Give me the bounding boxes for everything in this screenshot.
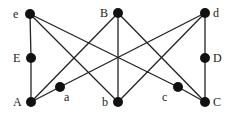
- node-d: [200, 8, 210, 18]
- edge-e-c: [30, 14, 178, 87]
- node-label-D: D: [213, 51, 222, 65]
- node-label-e: e: [13, 7, 18, 21]
- node-D: [200, 53, 210, 63]
- node-label-E: E: [13, 51, 20, 65]
- node-label-c: c: [162, 90, 167, 104]
- node-label-d: d: [213, 6, 219, 20]
- node-label-A: A: [13, 95, 22, 109]
- node-label-b: b: [102, 95, 108, 109]
- node-b: [113, 97, 123, 107]
- node-label-C: C: [213, 95, 221, 109]
- node-e: [25, 9, 35, 19]
- node-C: [200, 97, 210, 107]
- node-label-B: B: [100, 6, 108, 20]
- node-E: [26, 53, 36, 63]
- node-label-a: a: [64, 90, 70, 104]
- node-B: [113, 8, 123, 18]
- edge-e-E: [30, 14, 31, 58]
- node-A: [26, 97, 36, 107]
- node-c: [173, 82, 183, 92]
- graph-diagram: eEAaBbcdDC: [0, 0, 234, 114]
